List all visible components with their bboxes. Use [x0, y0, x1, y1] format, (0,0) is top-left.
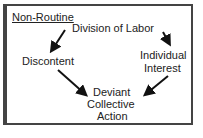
arrow-discontent-to-deviant [58, 70, 85, 94]
arrow-interest-to-deviant [146, 76, 168, 94]
arrows [0, 0, 203, 138]
arrow-division-to-discontent [52, 30, 65, 50]
arrow-division-to-interest [163, 32, 169, 43]
